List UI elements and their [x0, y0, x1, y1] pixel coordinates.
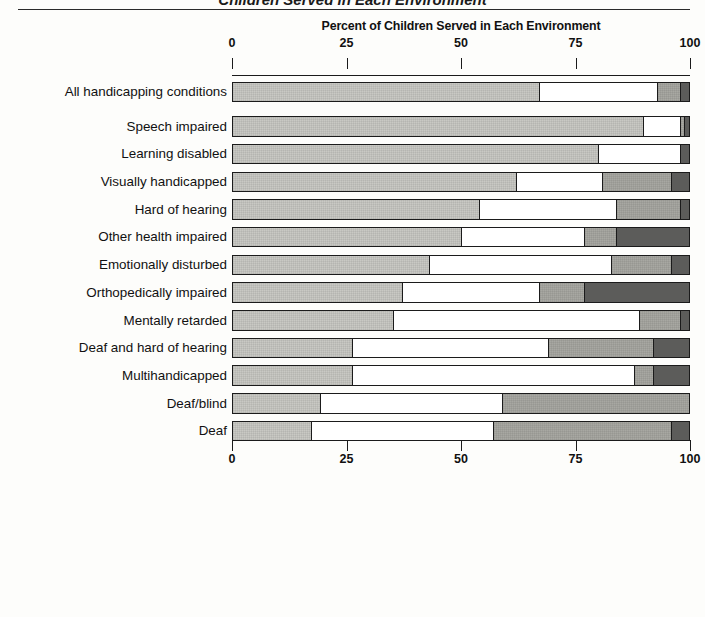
bar-segment: [493, 422, 671, 441]
bar-row-label: Deaf and hard of hearing: [11, 334, 227, 362]
bar-row: Emotionally disturbed: [0, 251, 705, 279]
x-axis-tick-label: 50: [454, 452, 468, 466]
bar-segment: [461, 228, 584, 247]
bar-segment: [233, 228, 461, 247]
bar-row-label: Orthopedically impaired: [11, 279, 227, 307]
bar-row: Deaf/blind: [0, 390, 705, 418]
bar-row-label: Deaf: [11, 417, 227, 445]
bar-row: Learning disabled: [0, 140, 705, 168]
legend-block: LEGEND RegularclassesSeparateclassesSepa…: [0, 470, 705, 617]
bar-segment: [602, 173, 670, 192]
bar-row-label: Other health impaired: [11, 223, 227, 251]
bar-segment: [516, 173, 603, 192]
stacked-bar: [232, 144, 690, 165]
stacked-bar: [232, 255, 690, 276]
bar-row: Multihandicapped: [0, 362, 705, 390]
bar-row: Speech impaired: [0, 113, 705, 141]
bar-segment: [233, 422, 311, 441]
bar-row-label: All handicapping conditions: [11, 78, 227, 106]
stacked-bar: [232, 338, 690, 359]
bar-segment: [352, 366, 635, 385]
bar-row-label: Mentally retarded: [11, 307, 227, 335]
bar-segment: [429, 256, 611, 275]
bar-segment: [233, 83, 539, 102]
bar-segment: [402, 283, 539, 302]
x-axis-bottom-tick-labels: 0255075100: [0, 452, 705, 466]
bar-segment: [233, 394, 320, 413]
stacked-bar: [232, 227, 690, 248]
stacked-bar: [232, 421, 690, 442]
bar-row: Deaf and hard of hearing: [0, 334, 705, 362]
x-axis-tick-label: 100: [680, 452, 701, 466]
bar-segment: [680, 200, 689, 219]
stacked-bar: [232, 116, 690, 137]
bar-segment: [548, 339, 653, 358]
bar-segment: [393, 311, 639, 330]
bar-segment: [634, 366, 652, 385]
bar-segment: [502, 394, 689, 413]
bar-segment: [233, 256, 429, 275]
bar-segment: [584, 283, 689, 302]
bar-segment: [684, 117, 689, 136]
bar-segment: [671, 422, 689, 441]
x-axis-tick-mark: [461, 58, 462, 69]
bar-segment: [233, 145, 598, 164]
bar-segment: [233, 311, 393, 330]
stacked-bar: [232, 82, 690, 103]
bar-row-label: Multihandicapped: [11, 362, 227, 390]
x-axis-tick-label: 0: [229, 36, 236, 50]
stacked-bar: [232, 393, 690, 414]
bar-segment: [584, 228, 616, 247]
x-axis-tick-mark: [690, 58, 691, 69]
bar-row: Other health impaired: [0, 223, 705, 251]
bar-segment: [479, 200, 616, 219]
bar-row-label: Emotionally disturbed: [11, 251, 227, 279]
bar-segment: [311, 422, 493, 441]
bar-segment: [671, 256, 689, 275]
bar-segment: [233, 200, 479, 219]
bar-segment: [680, 311, 689, 330]
x-axis-top-tick-labels: 0255075100: [0, 36, 705, 50]
bar-segment: [598, 145, 680, 164]
x-axis-tick-mark: [347, 58, 348, 69]
bar-segment: [680, 145, 689, 164]
x-axis-tick-label: 0: [229, 452, 236, 466]
bar-segment: [233, 366, 352, 385]
bar-row: Deaf: [0, 417, 705, 445]
x-axis-tick-label: 50: [454, 36, 468, 50]
bar-segment: [653, 339, 689, 358]
bar-row: Hard of hearing: [0, 196, 705, 224]
bar-segment: [539, 283, 585, 302]
x-axis-tick-mark: [576, 440, 577, 451]
bar-segment: [680, 83, 689, 102]
x-axis-top-rule: [232, 75, 690, 76]
bar-segment: [671, 173, 689, 192]
bar-segment: [643, 117, 679, 136]
bar-row: Mentally retarded: [0, 307, 705, 335]
bar-row-label: Speech impaired: [11, 113, 227, 141]
x-axis-tick-mark: [690, 440, 691, 451]
x-axis-tick-mark: [576, 58, 577, 69]
bar-segment: [233, 173, 516, 192]
bar-segment: [233, 283, 402, 302]
x-axis-tick-mark: [347, 440, 348, 451]
x-axis-tick-label: 25: [340, 36, 354, 50]
stacked-bar: [232, 172, 690, 193]
bar-segment: [616, 200, 680, 219]
x-axis-tick-label: 75: [569, 452, 583, 466]
bar-segment: [653, 366, 689, 385]
bar-row: Orthopedically impaired: [0, 279, 705, 307]
bar-segment: [639, 311, 680, 330]
row-gap: [0, 106, 705, 113]
x-axis-tick-label: 25: [340, 452, 354, 466]
bar-segment: [616, 228, 689, 247]
bar-segment: [611, 256, 670, 275]
bar-rows: All handicapping conditionsSpeech impair…: [0, 78, 705, 445]
bar-row-label: Hard of hearing: [11, 196, 227, 224]
bar-segment: [352, 339, 548, 358]
bar-row: Visually handicapped: [0, 168, 705, 196]
stacked-bar: [232, 310, 690, 331]
x-axis-tick-label: 100: [680, 36, 701, 50]
bar-row-label: Learning disabled: [11, 140, 227, 168]
bar-segment: [320, 394, 502, 413]
